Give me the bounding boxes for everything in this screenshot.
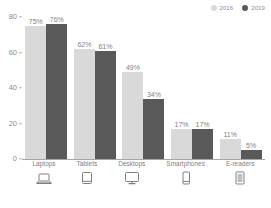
y-tick-label-80: 80 [9,13,17,21]
bar-value-label: 61% [98,43,112,50]
y-tick-80: 80 [9,13,22,21]
bar-tablets-2016[interactable] [74,49,95,159]
bar-holder: 17% [192,129,213,159]
bar-group-e-readers: 11%5% [220,17,262,159]
legend-swatch-2016 [211,5,217,11]
category-label: E-readers [226,161,255,168]
bar-group-laptops: 75%76% [25,17,67,159]
bar-holder: 61% [95,51,116,159]
category-desktops: Desktops [118,161,145,186]
y-tick-0: 0 [13,155,22,163]
bar-holder: 62% [74,49,95,159]
bar-value-label: 62% [77,41,91,48]
bar-wrap: 76% [46,17,67,159]
bar-holder: 34% [143,99,164,159]
bar-wrap: 75% [25,17,46,159]
category-tablets: Tablets [77,161,98,186]
legend-swatch-2019 [242,5,248,11]
bar-wrap: 17% [171,17,192,159]
bar-holder: 76% [46,24,67,159]
bar-holder: 49% [122,72,143,159]
legend-label-2016: 2016 [220,5,234,11]
bar-e-readers-2019[interactable] [241,150,262,159]
bar-value-label: 76% [50,16,64,23]
y-axis: 80 60 40 20 0 [0,17,22,159]
bar-group-tablets: 62%61% [74,17,116,159]
bar-wrap: 34% [143,17,164,159]
y-tick-60: 60 [9,49,22,57]
y-tick-label-0: 0 [13,155,17,163]
y-tick-label-60: 60 [9,49,17,57]
desktop-monitor-icon [123,170,141,186]
y-tick-40: 40 [9,84,22,92]
y-tick-label-40: 40 [9,84,17,92]
x-axis-categories: LaptopsTabletsDesktopsSmartphonesE-reade… [22,161,265,208]
category-label: Desktops [118,161,145,168]
legend-label-2019: 2019 [251,5,265,11]
legend-entry-2019[interactable]: 2019 [242,5,265,11]
tablet-icon [78,170,96,186]
bar-wrap: 5% [241,17,262,159]
bar-wrap: 62% [74,17,95,159]
category-smartphones: Smartphones [166,161,205,186]
bar-value-label: 49% [126,64,140,71]
bar-tablets-2019[interactable] [95,51,116,159]
bar-wrap: 61% [95,17,116,159]
laptop-icon [35,170,53,186]
y-tick-20: 20 [9,120,22,128]
bar-group-smartphones: 17%17% [171,17,213,159]
bar-laptops-2016[interactable] [25,26,46,159]
bar-desktops-2019[interactable] [143,99,164,159]
category-label: Tablets [77,161,98,168]
bar-group-desktops: 49%34% [122,17,164,159]
e-reader-icon [231,170,249,186]
category-laptops: Laptops [32,161,55,186]
bar-value-label: 17% [175,121,189,128]
bar-wrap: 49% [122,17,143,159]
bar-smartphones-2016[interactable] [171,129,192,159]
bar-smartphones-2019[interactable] [192,129,213,159]
bar-value-label: 5% [246,142,256,149]
bar-wrap: 11% [220,17,241,159]
bar-desktops-2016[interactable] [122,72,143,159]
bar-holder: 75% [25,26,46,159]
bar-e-readers-2016[interactable] [220,139,241,159]
category-label: Smartphones [166,161,205,168]
bar-groups: 75%76%62%61%49%34%17%17%11%5% [22,17,265,159]
legend-entry-2016[interactable]: 2016 [211,5,234,11]
category-label: Laptops [32,161,55,168]
smartphone-icon [177,170,195,186]
grouped-bar-chart: 2016 2019 80 60 40 20 0 75%76%62%61%49 [0,0,271,208]
chart-legend: 2016 2019 [211,2,266,13]
y-tick-label-20: 20 [9,120,17,128]
bar-value-label: 17% [196,121,210,128]
bar-value-label: 34% [147,91,161,98]
bar-value-label: 11% [223,131,237,138]
bar-wrap: 17% [192,17,213,159]
bar-laptops-2019[interactable] [46,24,67,159]
bar-holder: 11% [220,139,241,159]
bar-holder: 5% [241,150,262,159]
bar-holder: 17% [171,129,192,159]
bar-value-label: 75% [29,18,43,25]
category-e-readers: E-readers [226,161,255,186]
